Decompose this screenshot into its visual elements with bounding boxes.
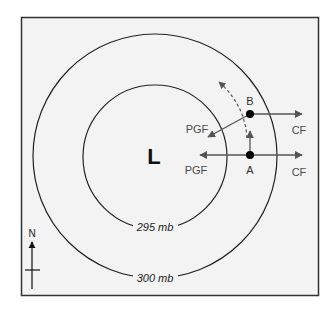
isobar-label-295: 295 mb — [136, 221, 174, 233]
cf-label-b: CF — [292, 124, 307, 136]
isobar-label-300: 300 mb — [137, 272, 174, 284]
pressure-gradient-diagram: 295 mb 300 mb L A PGF CF B PGF CF N — [0, 0, 333, 311]
cf-label-a: CF — [292, 166, 307, 178]
point-a — [246, 151, 254, 159]
low-pressure-label: L — [147, 144, 160, 169]
north-label: N — [28, 228, 35, 239]
point-b — [246, 110, 254, 118]
point-b-label: B — [246, 95, 253, 107]
pgf-label-a: PGF — [185, 164, 208, 176]
point-a-label: A — [246, 164, 254, 176]
pgf-label-b: PGF — [186, 123, 209, 135]
diagram-frame — [22, 18, 319, 296]
